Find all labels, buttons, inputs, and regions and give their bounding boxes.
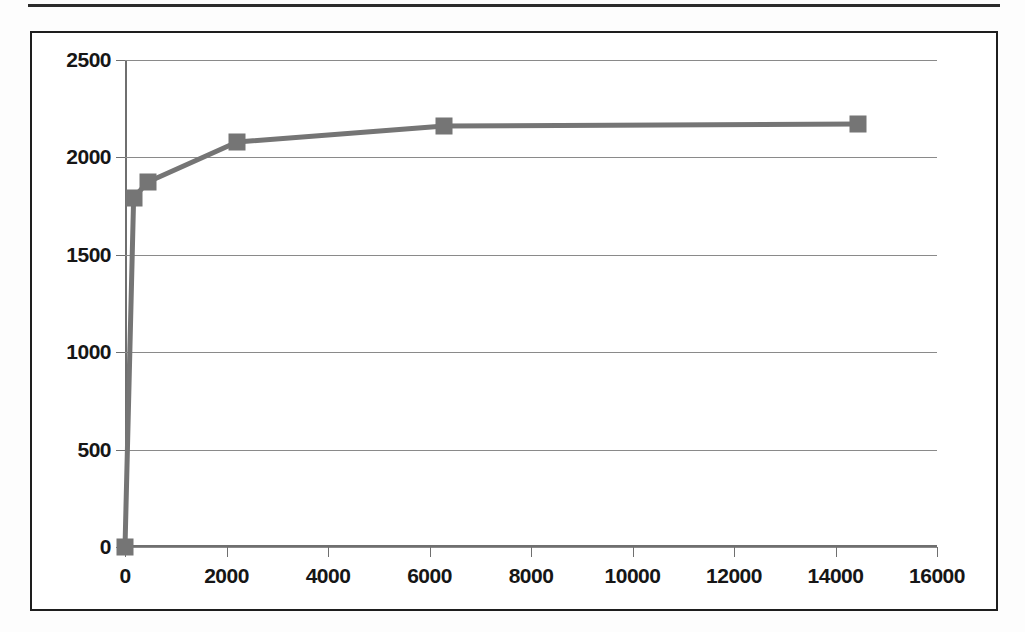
chart-plot-area: 05001000150020002500 0200040006000800010… — [125, 60, 937, 547]
y-tick-label: 2500 — [66, 48, 111, 72]
x-tick-mark-4000 — [328, 547, 329, 557]
y-tick-mark-2500 — [116, 60, 125, 61]
y-tick-label: 500 — [77, 438, 111, 462]
data-point-marker — [229, 134, 246, 151]
y-tick-label: 1000 — [66, 340, 111, 364]
series-line-layer — [125, 60, 937, 547]
chart-figure-frame: 05001000150020002500 0200040006000800010… — [30, 31, 998, 611]
y-tick-mark-1500 — [116, 255, 125, 256]
x-tick-mark-16000 — [937, 547, 938, 557]
x-tick-label: 0 — [119, 564, 130, 588]
x-tick-label: 8000 — [509, 564, 554, 588]
y-tick-mark-500 — [116, 450, 125, 451]
x-tick-mark-10000 — [633, 547, 634, 557]
data-point-marker — [117, 539, 134, 556]
x-tick-label: 4000 — [306, 564, 351, 588]
page-top-rule — [28, 4, 1000, 7]
data-point-marker — [436, 118, 453, 135]
y-tick-mark-2000 — [116, 157, 125, 158]
y-tick-label: 2000 — [66, 145, 111, 169]
x-tick-label: 16000 — [909, 564, 965, 588]
data-point-marker — [849, 116, 866, 133]
data-point-marker — [139, 173, 156, 190]
scanned-page: 05001000150020002500 0200040006000800010… — [0, 0, 1025, 632]
y-tick-label: 0 — [100, 535, 111, 559]
x-tick-mark-2000 — [227, 547, 228, 557]
x-tick-mark-8000 — [531, 547, 532, 557]
data-point-marker — [125, 189, 142, 206]
x-tick-label: 12000 — [706, 564, 762, 588]
x-tick-label: 6000 — [407, 564, 452, 588]
x-tick-mark-12000 — [734, 547, 735, 557]
x-tick-mark-14000 — [836, 547, 837, 557]
x-tick-label: 10000 — [605, 564, 661, 588]
x-tick-label: 14000 — [808, 564, 864, 588]
x-tick-mark-6000 — [430, 547, 431, 557]
y-tick-mark-1000 — [116, 352, 125, 353]
y-tick-label: 1500 — [66, 243, 111, 267]
series-1-line — [125, 124, 858, 547]
x-tick-label: 2000 — [204, 564, 249, 588]
